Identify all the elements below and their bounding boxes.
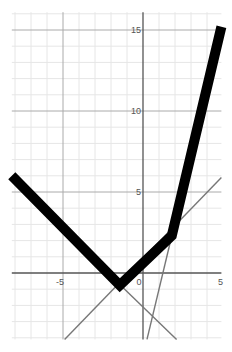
- x-tick-label: 0: [136, 277, 141, 287]
- y-tick-label: 5: [136, 187, 141, 197]
- x-tick-label: 5: [218, 277, 223, 287]
- thick-piecewise-line: [12, 27, 222, 285]
- graph-plot: -50551015: [0, 0, 232, 352]
- y-tick-label: 15: [131, 25, 141, 35]
- x-tick-label: -5: [56, 277, 64, 287]
- y-tick-label: 10: [131, 106, 141, 116]
- thick-piecewise-line: [12, 27, 222, 285]
